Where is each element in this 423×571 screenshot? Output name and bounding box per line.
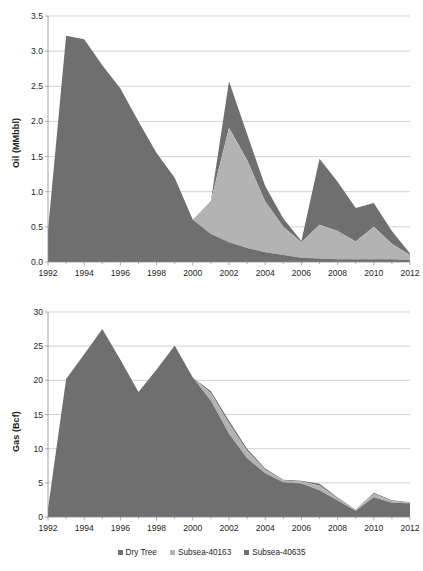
x-tick-label: 2010 — [364, 268, 383, 278]
y-tick-label: 1.5 — [31, 152, 43, 162]
x-tick-label: 1998 — [147, 523, 166, 533]
y-tick-label: 25 — [33, 341, 43, 351]
gas-y-axis-label: Gas (Bcf) — [11, 411, 21, 452]
y-tick-label: 30 — [33, 307, 43, 317]
x-tick-label: 2002 — [219, 523, 238, 533]
x-tick-label: 2008 — [328, 523, 347, 533]
y-tick-label: 2.5 — [31, 81, 43, 91]
x-tick-label: 2004 — [256, 523, 275, 533]
x-tick-label: 1994 — [75, 268, 94, 278]
y-tick-label: 15 — [33, 410, 43, 420]
x-tick-label: 1992 — [38, 268, 57, 278]
legend-label: Subsea-40635 — [252, 548, 305, 557]
x-tick-label: 2006 — [292, 523, 311, 533]
x-tick-label: 1998 — [147, 268, 166, 278]
legend-label: Subsea-40163 — [178, 548, 231, 557]
y-tick-label: 3.0 — [31, 46, 43, 56]
x-tick-label: 2002 — [219, 268, 238, 278]
gas-area-chart: 0510152025301992199419961998200020022004… — [0, 290, 423, 571]
gas-chart-canvas: 0510152025301992199419961998200020022004… — [0, 290, 423, 571]
legend-item: Subsea-40163 — [170, 548, 231, 557]
legend-swatch-icon — [118, 550, 123, 555]
legend-item: Subsea-40635 — [244, 548, 305, 557]
x-tick-label: 2000 — [183, 268, 202, 278]
figure-page: 0.00.51.01.52.02.53.03.51992199419961998… — [0, 0, 423, 571]
x-tick-label: 2006 — [292, 268, 311, 278]
x-tick-label: 2004 — [256, 268, 275, 278]
legend-swatch-icon — [244, 550, 249, 555]
y-tick-label: 1.0 — [31, 187, 43, 197]
x-tick-label: 2012 — [400, 268, 419, 278]
x-tick-label: 2010 — [364, 523, 383, 533]
oil-chart-canvas: 0.00.51.01.52.02.53.03.51992199419961998… — [0, 0, 423, 290]
x-tick-label: 2012 — [400, 523, 419, 533]
x-tick-label: 2008 — [328, 268, 347, 278]
y-tick-label: 0.5 — [31, 222, 43, 232]
legend-label: Dry Tree — [126, 548, 157, 557]
legend-swatch-icon — [170, 550, 175, 555]
y-tick-label: 10 — [33, 444, 43, 454]
chart-legend: Dry TreeSubsea-40163Subsea-40635 — [0, 548, 423, 557]
y-tick-label: 0 — [38, 512, 43, 522]
oil-y-axis-label: Oil (MMbbl) — [11, 118, 21, 168]
x-tick-label: 1992 — [38, 523, 57, 533]
legend-item: Dry Tree — [118, 548, 157, 557]
y-tick-label: 0.0 — [31, 257, 43, 267]
y-tick-label: 20 — [33, 375, 43, 385]
x-tick-label: 2000 — [183, 523, 202, 533]
x-tick-label: 1996 — [111, 268, 130, 278]
y-tick-label: 2.0 — [31, 116, 43, 126]
x-tick-label: 1996 — [111, 523, 130, 533]
x-tick-label: 1994 — [75, 523, 94, 533]
oil-area-chart: 0.00.51.01.52.02.53.03.51992199419961998… — [0, 0, 423, 290]
y-tick-label: 3.5 — [31, 11, 43, 21]
y-tick-label: 5 — [38, 478, 43, 488]
